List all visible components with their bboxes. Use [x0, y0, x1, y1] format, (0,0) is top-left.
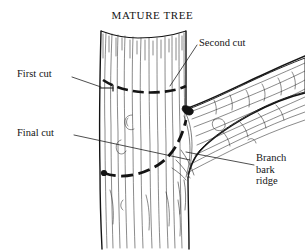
label-first-cut: First cut: [17, 68, 52, 80]
label-final-cut: Final cut: [17, 127, 54, 139]
label-branch-bark-ridge-line2: bark: [256, 164, 286, 176]
label-branch-bark-ridge-line3: ridge: [256, 175, 286, 187]
label-branch-bark-ridge-line1: Branch: [256, 152, 286, 164]
tree-trunk: [100, 31, 189, 249]
mature-tree-pruning-figure: MATURE TREE: [0, 0, 305, 251]
leader-first-cut: [72, 77, 101, 87]
label-branch-bark-ridge: Branch bark ridge: [256, 152, 286, 187]
label-second-cut: Second cut: [199, 37, 245, 49]
leader-branch-bark-ridge: [186, 152, 254, 165]
tree-illustration: [0, 0, 305, 251]
